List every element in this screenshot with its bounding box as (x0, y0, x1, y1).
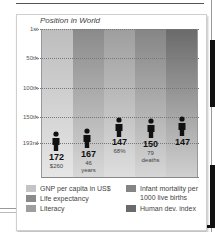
legend-label-human-dev-index: Human dev. index (140, 204, 196, 213)
y-tick-193rd: 193rd (14, 140, 38, 146)
page-right-black-bar-lower (210, 165, 215, 227)
rank-gnp: 172 (41, 152, 72, 162)
gridline-100th (36, 88, 199, 89)
chart-title: Position in World (40, 16, 100, 25)
legend-swatch-infant-mortality (126, 185, 136, 192)
detail-literacy: 68% (104, 148, 135, 155)
legend-swatch-life-expectancy (26, 195, 36, 202)
gridline-50th (36, 58, 199, 59)
page-top-rule (16, 3, 204, 4)
rank-human-dev-index: 147 (167, 137, 198, 147)
rank-literacy: 147 (104, 137, 135, 147)
legend-label-infant-mortality-line2: 1000 live births (140, 193, 187, 202)
legend-label-gnp: GNP per capita in US$ (40, 184, 111, 193)
detail-life-expectancy-unit: years (73, 167, 104, 174)
person-icon (177, 116, 187, 136)
person-icon (146, 118, 156, 138)
y-tick-150th: 150th (14, 114, 38, 120)
y-tick-50th: 50th (14, 55, 38, 61)
y-tick-100th: 100th (14, 85, 38, 91)
person-icon (51, 131, 61, 151)
legend-label-life-expectancy: Life expectancy (40, 194, 89, 203)
detail-gnp: $260 (41, 163, 72, 170)
rank-infant-mortality: 150 (135, 139, 166, 149)
person-icon (82, 128, 92, 148)
legend-swatch-human-dev-index (126, 205, 136, 212)
legend-label-literacy: Literacy (40, 204, 65, 213)
gridline-1st (36, 29, 199, 30)
legend-swatch-literacy (26, 205, 36, 212)
page-right-black-bar (210, 40, 215, 107)
page-bottom-hook (207, 225, 215, 228)
legend-swatch-gnp (26, 185, 36, 192)
legend-label-infant-mortality-line1: Infant mortality per (140, 184, 198, 193)
detail-life-expectancy-value: 46 (73, 160, 104, 167)
rank-life-expectancy: 167 (73, 149, 104, 159)
column-human-dev-index (166, 29, 198, 177)
detail-infant-mortality-value: 79 (135, 150, 166, 157)
detail-infant-mortality-unit: deaths (135, 157, 166, 164)
y-tick-1st: 1st (14, 26, 38, 32)
person-icon (114, 117, 124, 137)
